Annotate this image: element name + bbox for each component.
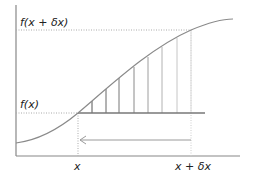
f-x-label: f(x) <box>20 99 39 110</box>
function-curve <box>16 19 233 143</box>
f-x-plus-dx-label: f(x + δx) <box>20 17 68 28</box>
x-plus-dx-label: x + δx <box>175 161 211 172</box>
left-arrow <box>80 136 191 144</box>
strip-lines <box>92 30 191 113</box>
x-label: x <box>74 161 81 172</box>
